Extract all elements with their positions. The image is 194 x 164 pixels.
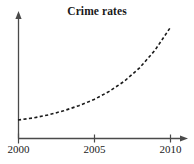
x-tick-label-2010: 2010 (156, 143, 185, 155)
arrow-up-icon (15, 11, 21, 19)
crime-rates-curve (18, 28, 170, 120)
chart-plot-area (0, 0, 194, 164)
arrow-right-icon (180, 135, 188, 141)
crime-rates-chart-figure: Crime rates 2000 2005 2010 (0, 0, 194, 164)
x-tick-label-2005: 2005 (80, 143, 109, 155)
x-tick-label-2000: 2000 (4, 143, 33, 155)
